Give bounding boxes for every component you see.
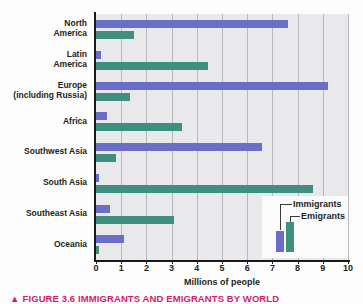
category-label-line: Latin	[0, 49, 87, 59]
category-label-south-asia: South Asia	[0, 177, 92, 187]
bar-emigrants	[96, 93, 130, 101]
legend-label-immigrants: Immigrants	[293, 199, 342, 209]
bar-emigrants	[96, 62, 208, 70]
category-label-line: Europe	[0, 80, 87, 90]
bar-immigrants	[96, 51, 101, 59]
category-label-southeast-asia: Southeast Asia	[0, 208, 92, 218]
bar-immigrants	[96, 174, 99, 182]
caption-triangle-icon: ▲	[10, 293, 20, 304]
legend: Immigrants Emigrants	[262, 196, 348, 258]
category-axis-labels: NorthAmericaLatinAmericaEurope(including…	[0, 14, 96, 260]
bar-emigrants	[96, 185, 313, 193]
bar-group	[96, 45, 348, 76]
category-label-line: Southeast Asia	[0, 208, 87, 218]
bar-emigrants	[96, 31, 134, 39]
x-tick-label: 10	[336, 263, 360, 273]
caption-text: FIGURE 3.6 IMMIGRANTS AND EMIGRANTS BY W…	[23, 293, 280, 304]
bar-emigrants	[96, 154, 116, 162]
x-tick-label: 9	[311, 263, 335, 273]
category-label-oceania: Oceania	[0, 239, 92, 249]
legend-swatch-emigrants	[286, 222, 294, 252]
legend-swatch-immigrants	[276, 231, 284, 252]
bar-immigrants	[96, 112, 107, 120]
legend-leader-immigrants-vertical	[280, 204, 281, 230]
category-label-line: (including Russia)	[0, 90, 87, 100]
x-tick-label: 8	[286, 263, 310, 273]
x-tick-label: 2	[134, 263, 158, 273]
category-label-line: America	[0, 28, 87, 38]
bar-immigrants	[96, 20, 288, 28]
bar-emigrants	[96, 246, 99, 254]
category-label-line: South Asia	[0, 177, 87, 187]
bar-group	[96, 137, 348, 168]
category-label-line: North	[0, 18, 87, 28]
bar-immigrants	[96, 235, 124, 243]
bar-immigrants	[96, 82, 328, 90]
figure-caption: ▲FIGURE 3.6 IMMIGRANTS AND EMIGRANTS BY …	[10, 293, 363, 304]
category-label-north-america: NorthAmerica	[0, 18, 92, 38]
bar-group	[96, 76, 348, 107]
bar-emigrants	[96, 216, 174, 224]
gridline	[348, 14, 349, 260]
x-tick-label: 5	[210, 263, 234, 273]
category-label-latin-america: LatinAmerica	[0, 49, 92, 69]
category-label-line: Africa	[0, 116, 87, 126]
legend-leader-immigrants-horizontal	[280, 204, 292, 205]
category-label-southwest-asia: Southwest Asia	[0, 146, 92, 156]
x-tick-label: 4	[185, 263, 209, 273]
x-tick-label: 0	[84, 263, 108, 273]
x-tick-label: 1	[109, 263, 133, 273]
bar-immigrants	[96, 205, 110, 213]
category-label-africa: Africa	[0, 116, 92, 126]
x-axis-title: Millions of people	[96, 277, 348, 287]
category-label-line: Oceania	[0, 239, 87, 249]
category-label-line: Southwest Asia	[0, 146, 87, 156]
legend-leader-emigrants-horizontal	[290, 216, 300, 217]
x-tick-label: 7	[260, 263, 284, 273]
figure-immigrants-emigrants: NorthAmericaLatinAmericaEurope(including…	[0, 0, 363, 304]
x-axis-tick-labels: 012345678910	[0, 263, 363, 277]
bar-immigrants	[96, 143, 262, 151]
bar-group	[96, 168, 348, 199]
x-tick-label: 3	[160, 263, 184, 273]
category-label-line: America	[0, 59, 87, 69]
x-tick-label: 6	[235, 263, 259, 273]
legend-label-emigrants: Emigrants	[301, 211, 345, 221]
category-label-europe-including-russia: Europe(including Russia)	[0, 80, 92, 100]
bar-group	[96, 106, 348, 137]
bar-emigrants	[96, 123, 182, 131]
bar-group	[96, 14, 348, 45]
